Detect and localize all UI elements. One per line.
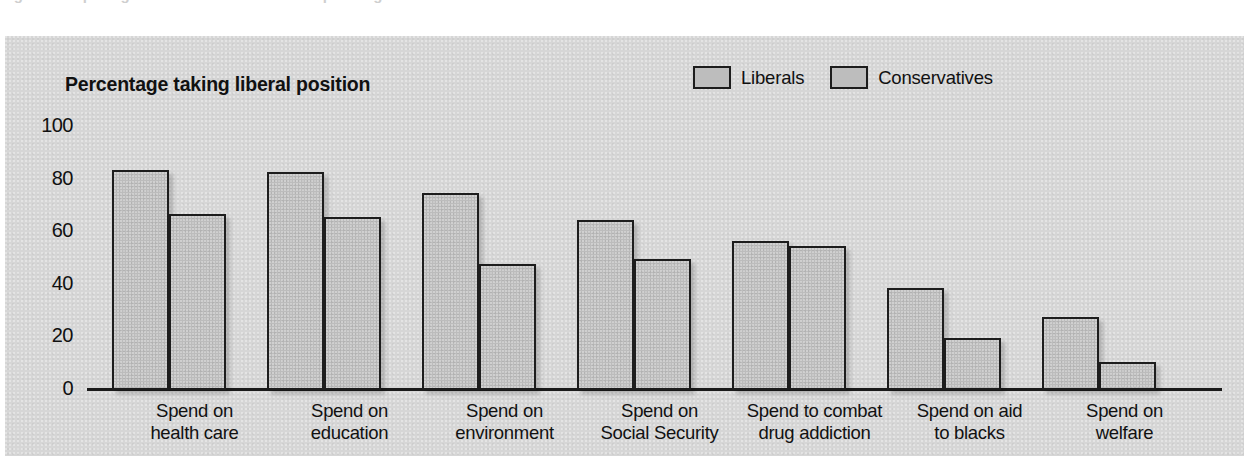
bar-conservatives-5 <box>789 246 846 390</box>
bar-conservatives-1 <box>169 214 226 390</box>
bar-liberals-6 <box>887 288 944 390</box>
bar-conservatives-3 <box>479 264 536 390</box>
bar-liberals-1 <box>112 170 169 390</box>
bar-liberals-2 <box>267 172 324 390</box>
plot-area: 020406080100Spend onhealth careSpend one… <box>5 36 1244 456</box>
y-axis-tick-60: 60 <box>23 219 73 242</box>
bar-conservatives-7 <box>1099 362 1156 390</box>
y-axis-tick-20: 20 <box>23 324 73 347</box>
x-axis-label-7: Spend onwelfare <box>1015 400 1235 444</box>
y-axis-tick-80: 80 <box>23 166 73 189</box>
bar-liberals-4 <box>577 220 634 390</box>
bar-liberals-5 <box>732 241 789 390</box>
bar-conservatives-6 <box>944 338 1001 390</box>
bar-conservatives-2 <box>324 217 381 390</box>
x-axis-label-line: welfare <box>1015 422 1235 444</box>
figure-panel: Percentage taking liberal position Liber… <box>5 36 1244 456</box>
caption-remnant-text: Figure comparing liberal and conservativ… <box>0 0 451 3</box>
cut-off-caption-strip: Figure comparing liberal and conservativ… <box>0 0 1249 30</box>
bar-conservatives-4 <box>634 259 691 390</box>
y-axis-tick-0: 0 <box>23 377 73 400</box>
y-axis-tick-40: 40 <box>23 271 73 294</box>
x-axis-label-line: Spend on <box>1015 400 1235 422</box>
bar-liberals-7 <box>1042 317 1099 390</box>
bar-liberals-3 <box>422 193 479 390</box>
y-axis-tick-100: 100 <box>23 114 73 137</box>
